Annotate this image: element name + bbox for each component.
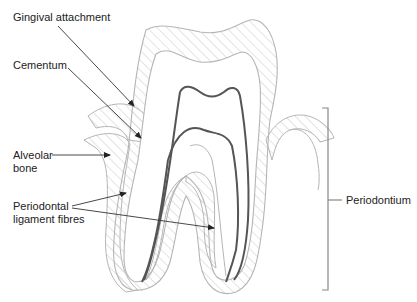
label-cementum: Cementum: [13, 59, 67, 72]
label-alveolar-bone-line1: Alveolar: [13, 149, 53, 162]
label-pdl-line1: Periodontal: [13, 200, 69, 213]
label-periodontium: Periodontium: [346, 194, 411, 207]
gingival-attachment-pointer: [58, 26, 134, 106]
right-gingiva: [266, 115, 334, 190]
label-gingival-attachment: Gingival attachment: [13, 11, 110, 24]
cementum-pointer: [68, 68, 141, 138]
label-pdl-line2: ligament fibres: [13, 213, 85, 226]
tooth-diagram: Gingival attachment Cementum Alveolar bo…: [0, 0, 417, 302]
tooth-illustration: [0, 0, 417, 302]
label-alveolar-bone-line2: bone: [13, 162, 37, 175]
